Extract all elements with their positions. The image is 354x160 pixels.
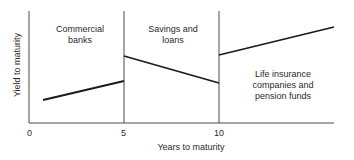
region-label-commercial-banks: Commercial banks bbox=[44, 24, 116, 46]
line-savings-and-loans bbox=[124, 56, 219, 83]
region-label-savings-and-loans: Savings and loans bbox=[138, 24, 208, 46]
x-axis-label: Years to maturity bbox=[146, 142, 236, 152]
line-commercial-banks bbox=[43, 81, 124, 100]
y-axis-label: Yield to maturity bbox=[12, 20, 22, 110]
line-life-insurance-pension bbox=[219, 27, 334, 55]
x-tick-10: 10 bbox=[214, 128, 224, 138]
region-label-life-insurance: Life insurance companies and pension fun… bbox=[238, 69, 328, 102]
x-tick-5: 5 bbox=[121, 128, 126, 138]
x-tick-0: 0 bbox=[27, 128, 32, 138]
